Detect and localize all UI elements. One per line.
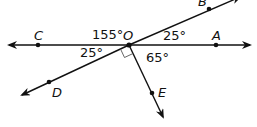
- ray-od: [22, 45, 129, 95]
- angle-coB: 155°: [92, 27, 123, 42]
- angle-aoe: 65°: [146, 50, 169, 65]
- vertex-o-dot: [126, 42, 131, 47]
- point-a-dot: [214, 43, 219, 48]
- label-a: A: [211, 28, 221, 43]
- point-b-dot: [207, 7, 212, 12]
- point-c-dot: [36, 43, 41, 48]
- label-c: C: [34, 28, 44, 43]
- angle-boa: 25°: [163, 28, 186, 43]
- geometry-diagram: O C A B D E 155° 25° 25° 65°: [0, 0, 257, 127]
- point-e-dot: [150, 91, 155, 96]
- label-d: D: [52, 85, 62, 100]
- label-o: O: [123, 28, 133, 43]
- label-b: B: [198, 0, 207, 9]
- label-e: E: [158, 85, 167, 100]
- angle-cod: 25°: [80, 45, 103, 60]
- point-d-dot: [47, 80, 52, 85]
